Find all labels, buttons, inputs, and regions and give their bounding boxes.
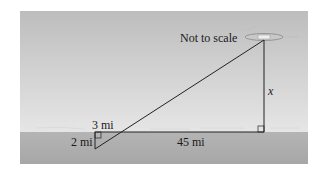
right-angle-marker-small (95, 132, 101, 138)
label-x: x (268, 85, 273, 97)
label-2mi: 2 mi (71, 136, 93, 148)
airplane-icon (245, 26, 298, 41)
not-to-scale-label: Not to scale (180, 32, 237, 44)
hypotenuse-line (95, 40, 264, 149)
right-angle-marker-large (258, 126, 264, 132)
triangle-diagram (0, 0, 326, 174)
wave-lines (35, 127, 300, 129)
label-3mi: 3 mi (92, 119, 114, 131)
label-45mi: 45 mi (177, 136, 205, 148)
